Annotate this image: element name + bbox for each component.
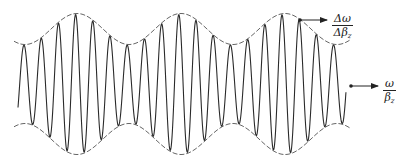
group-velocity-denominator: Δβ <box>333 26 347 39</box>
phase-velocity-numerator: ω <box>383 78 396 91</box>
phase-velocity-subscript: z <box>391 97 395 105</box>
group-velocity-subscript: z <box>348 32 352 40</box>
phase-velocity-label: ω βz <box>383 74 396 105</box>
envelope-upper-dashed <box>14 14 350 45</box>
group-velocity-origin-dot <box>298 18 302 22</box>
carrier-wave <box>18 15 346 153</box>
group-velocity-numerator: Δω <box>332 13 353 26</box>
phase-velocity-origin-dot <box>349 84 353 88</box>
group-velocity-label: Δω Δβz <box>332 9 353 40</box>
wave-packet-diagram <box>0 0 416 164</box>
